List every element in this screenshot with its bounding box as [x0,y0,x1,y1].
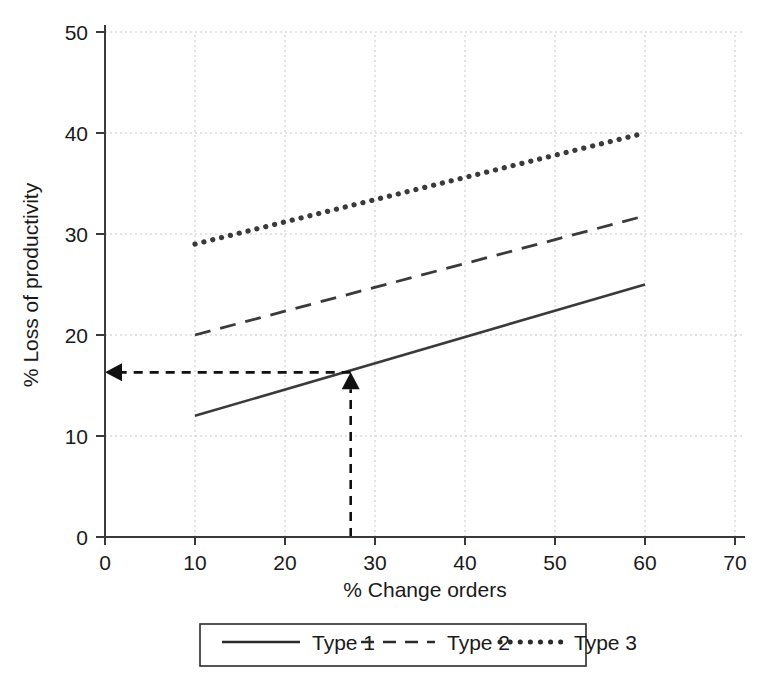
productivity-loss-line-chart: 010203040506070 01020304050 % Change ord… [0,0,764,696]
x-tick-label: 60 [633,551,656,574]
x-tick-label: 10 [183,551,206,574]
x-axis-title: % Change orders [343,578,506,601]
y-tick-label: 50 [65,21,88,44]
y-tick-label: 10 [65,425,88,448]
x-tick-label: 0 [99,551,111,574]
x-tick-label: 30 [363,551,386,574]
x-tick-label: 70 [723,551,746,574]
y-tick-label: 30 [65,223,88,246]
x-tick-label: 20 [273,551,296,574]
chart-figure: 010203040506070 01020304050 % Change ord… [0,0,764,696]
legend-box [200,624,586,666]
x-tick-label: 40 [453,551,476,574]
y-tick-label: 0 [76,526,88,549]
y-tick-label: 40 [65,122,88,145]
legend-label-type-3: Type 3 [574,631,637,654]
y-tick-label: 20 [65,324,88,347]
y-axis-title: % Loss of productivity [19,182,42,387]
chart-legend: Type 1Type 2Type 3 [200,624,637,666]
x-tick-label: 50 [543,551,566,574]
